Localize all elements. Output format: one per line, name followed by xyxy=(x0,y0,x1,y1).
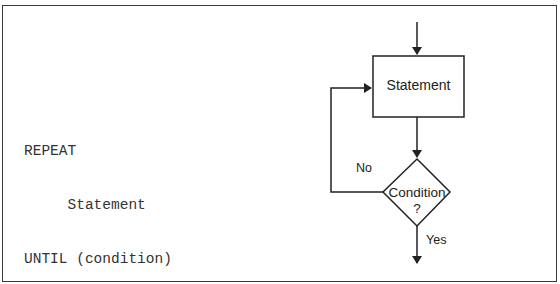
flowchart: Statement Condition ? No Yes xyxy=(0,0,560,284)
yes-exit-arrow: Yes xyxy=(417,226,446,263)
decision-diamond: Condition ? xyxy=(383,159,450,226)
decision-label-line2: ? xyxy=(413,201,421,216)
yes-label: Yes xyxy=(426,233,446,247)
no-label: No xyxy=(356,161,372,175)
statement-box-label: Statement xyxy=(387,77,451,93)
statement-box: Statement xyxy=(373,56,464,117)
decision-label-line1: Condition xyxy=(388,185,445,200)
